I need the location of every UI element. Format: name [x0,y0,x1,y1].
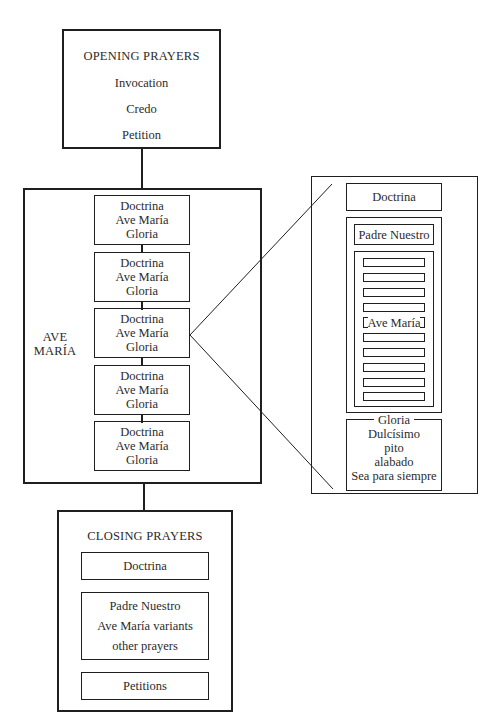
bead-bar [363,273,425,282]
connector-ave-to-closing [143,483,145,511]
bead-bar [363,378,425,387]
decade-line: Gloria [126,340,158,354]
detail-gloria-lines: Gloria Dulcísimo pito alabado Sea para s… [347,413,441,483]
closing-petitions-box: Petitions [81,672,209,700]
bead-bar [363,363,425,372]
decade-detail-panel: Doctrina Padre Nuestro Ave María Gloria … [311,176,478,494]
closing-petitions-label: Petitions [123,679,167,693]
opening-item-credo: Credo [64,102,219,116]
detail-padre-nuestro-box: Padre Nuestro [354,224,434,245]
decade-line: Doctrina [120,199,164,213]
closing-middle-line: Padre Nuestro [109,596,180,616]
closing-middle-box: Padre Nuestro Ave María variants other p… [81,592,209,660]
decade-line: Ave María [116,213,169,227]
opening-prayers-title: OPENING PRAYERS [64,49,219,64]
ave-maria-label-line2: MARÍA [29,344,81,358]
opening-item-invocation: Invocation [64,76,219,90]
decade-line: Doctrina [120,256,164,270]
decade-line: Ave María [116,439,169,453]
closing-doctrina-box: Doctrina [81,552,209,580]
closing-prayers-box: CLOSING PRAYERS Doctrina Padre Nuestro A… [57,510,233,712]
decade-line: Gloria [126,397,158,411]
bead-bar [363,333,425,342]
ave-maria-bead-label: Ave María [361,316,427,330]
decade-line: Ave María [116,270,169,284]
decade-box-1: Doctrina Ave María Gloria [94,195,190,245]
connector-opening-to-ave [141,148,143,190]
decade-line: Doctrina [120,369,164,383]
decade-line: Ave María [116,326,169,340]
decade-line: Gloria [126,227,158,241]
ave-maria-bead-text: Ave María [368,316,421,330]
bead-bar [363,392,425,401]
bead-bar [363,258,425,267]
bead-bar [363,348,425,357]
gloria-line: Sea para siempre [347,469,441,483]
decade-box-2: Doctrina Ave María Gloria [94,252,190,302]
bead-bar [363,288,425,297]
gloria-line: pito [347,441,441,455]
ave-maria-label: AVE MARÍA [29,330,81,358]
decade-box-3-expanded: Doctrina Ave María Gloria [94,308,190,358]
detail-gloria-box: Gloria Dulcísimo pito alabado Sea para s… [346,419,442,491]
decade-line: Gloria [126,453,158,467]
detail-padre-nuestro-label: Padre Nuestro [358,228,429,242]
decade-box-5: Doctrina Ave María Gloria [94,421,190,471]
opening-item-petition: Petition [64,128,219,142]
ave-maria-label-line1: AVE [29,330,81,344]
detail-doctrina-label: Doctrina [372,190,416,204]
gloria-line: Dulcísimo [347,427,441,441]
gloria-line: alabado [347,455,441,469]
bracket-right-icon [420,317,425,328]
detail-padre-nuestro-group: Padre Nuestro Ave María [346,217,442,413]
closing-middle-line: other prayers [112,636,178,656]
bead-bar [363,303,425,312]
decade-line: Doctrina [120,425,164,439]
opening-prayers-box: OPENING PRAYERS Invocation Credo Petitio… [62,29,221,149]
closing-prayers-title: CLOSING PRAYERS [59,529,231,544]
decade-line: Doctrina [120,312,164,326]
gloria-heading: Gloria [374,413,414,427]
gloria-line: Gloria [378,413,410,427]
decade-box-4: Doctrina Ave María Gloria [94,365,190,415]
ave-maria-beads-group: Ave María [354,251,434,407]
detail-doctrina-box: Doctrina [346,183,442,211]
closing-doctrina-label: Doctrina [123,559,167,573]
decade-line: Gloria [126,284,158,298]
closing-middle-line: Ave María variants [97,616,193,636]
decade-line: Ave María [116,383,169,397]
